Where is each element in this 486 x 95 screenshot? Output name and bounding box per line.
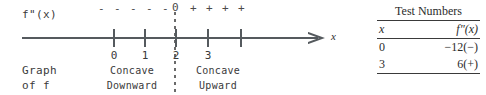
column-header-x: x (377, 21, 411, 39)
axis-tick-label: 2 (169, 49, 183, 62)
axis-tick-label: 3 (201, 49, 215, 62)
region-label-concave-upward: Concave Upward (182, 63, 254, 93)
axis-tick (144, 29, 146, 47)
cell-fpp-value: 6(+) (411, 56, 480, 74)
region-right-line1: Concave (182, 63, 254, 78)
number-line-axis (22, 37, 318, 39)
graph-label-line2: of f (22, 78, 57, 93)
minus-sign: - (162, 2, 169, 16)
column-header-fpp: f"(x) (411, 21, 480, 39)
test-numbers-grid: x f"(x) 0 −12(−) 3 6(+) (377, 20, 480, 74)
cell-x-value: 3 (377, 56, 411, 74)
axis-tick (175, 29, 177, 47)
table-row: 3 6(+) (377, 56, 480, 74)
second-derivative-label: f"(x) (22, 8, 57, 21)
axis-variable-label: x (331, 30, 336, 42)
minus-sign: - (114, 2, 121, 16)
cell-fpp-value: −12(−) (411, 39, 480, 57)
plus-sign: + (190, 2, 197, 16)
graph-of-f-label: Graph of f (22, 63, 57, 93)
test-numbers-table: Test Numbers x f"(x) 0 −12(−) 3 6(+) (377, 4, 480, 74)
sign-row: - - - - - + + + + (98, 2, 228, 18)
table-header-row: x f"(x) (377, 21, 480, 39)
graph-label-line1: Graph (22, 63, 57, 78)
minus-sign: - (146, 2, 153, 16)
axis-arrow-icon (308, 30, 326, 46)
minus-sign: - (130, 2, 137, 16)
axis-tick (240, 29, 242, 47)
axis-tick (207, 29, 209, 47)
minus-sign: - (98, 2, 105, 16)
axis-tick (113, 29, 115, 47)
axis-tick-label: 1 (138, 49, 152, 62)
region-left-line2: Downward (96, 78, 168, 93)
region-label-concave-downward: Concave Downward (96, 63, 168, 93)
axis-tick-label: 0 (107, 49, 121, 62)
plus-sign: + (206, 2, 213, 16)
region-right-line2: Upward (182, 78, 254, 93)
region-left-line1: Concave (96, 63, 168, 78)
plus-sign: + (222, 2, 229, 16)
test-numbers-caption: Test Numbers (377, 4, 480, 20)
concavity-sign-chart-figure: f"(x) - - - - - + + + + 0 x 0 1 2 3 Grap… (0, 0, 486, 95)
cell-x-value: 0 (377, 39, 411, 57)
table-row: 0 −12(−) (377, 39, 480, 57)
plus-sign: + (238, 2, 245, 16)
